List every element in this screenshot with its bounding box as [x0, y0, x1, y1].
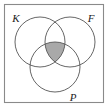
- set-label-p: P: [69, 91, 77, 103]
- venn-diagram-canvas: K F P: [0, 0, 110, 108]
- venn-diagram-figure: K F P: [0, 0, 110, 108]
- set-label-k: K: [11, 12, 20, 24]
- set-label-f: F: [87, 12, 95, 24]
